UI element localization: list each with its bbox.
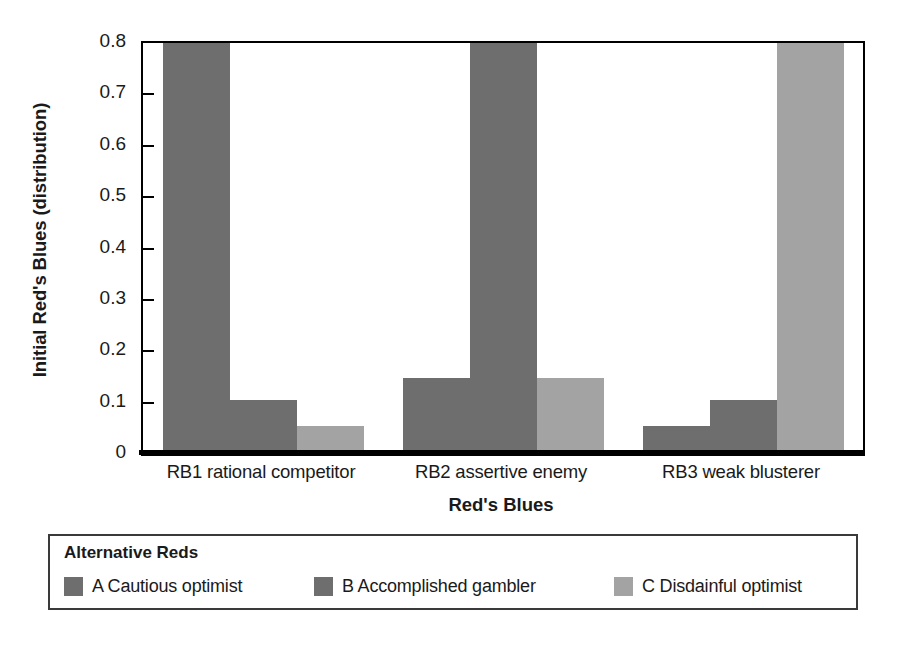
bar-2-a: [403, 378, 470, 454]
y-axis-tick-label: 0.7: [100, 82, 126, 102]
y-axis-tick-mark: [143, 248, 154, 250]
bar-1-a: [163, 43, 230, 454]
plot-frame: [141, 41, 865, 456]
legend-entry: A Cautious optimist: [64, 571, 242, 601]
bar-2-b: [470, 43, 537, 454]
x-axis-category-label: RB1 rational competitor: [141, 459, 381, 485]
y-axis-tick-label: 0.4: [100, 237, 126, 257]
y-axis-tick-mark: [143, 402, 154, 404]
plot-area: [143, 43, 863, 454]
y-axis-tick-mark: [143, 299, 154, 301]
y-axis-tick-mark: [143, 350, 154, 352]
y-axis-tick-label: 0.5: [100, 185, 126, 205]
y-axis-tick-labels: 0.80.70.60.50.40.30.20.10: [60, 31, 134, 462]
x-axis-category-label: RB2 assertive enemy: [381, 459, 621, 485]
legend-entries: A Cautious optimistB Accomplished gamble…: [64, 571, 848, 603]
legend-color-swatch: [314, 577, 333, 596]
y-axis-tick-label: 0.1: [100, 391, 126, 411]
x-axis-category-label: RB3 weak blusterer: [621, 459, 861, 485]
legend-title: Alternative Reds: [64, 543, 198, 563]
legend-entry: B Accomplished gambler: [314, 571, 536, 601]
x-axis-category-labels: RB1 rational competitorRB2 assertive ene…: [141, 459, 861, 487]
y-axis-tick-mark: [143, 145, 154, 147]
legend-entry-label: A Cautious optimist: [92, 576, 242, 597]
bar-3-b: [710, 400, 777, 454]
y-axis-tick-label: 0: [115, 442, 126, 462]
legend-color-swatch: [614, 577, 633, 596]
legend-entry-label: B Accomplished gambler: [342, 576, 536, 597]
bar-chart-figure: Initial Red's Blues (distribution) 0.80.…: [0, 0, 903, 647]
y-axis-tick-label: 0.8: [100, 31, 126, 51]
y-axis-tick-label: 0.2: [100, 339, 126, 359]
legend-entry: C Disdainful optimist: [614, 571, 802, 601]
y-axis-tick-mark: [143, 93, 154, 95]
y-axis-tick-mark: [143, 196, 154, 198]
y-axis-tick-label: 0.3: [100, 288, 126, 308]
x-axis-title: Red's Blues: [141, 492, 861, 518]
y-axis-title: Initial Red's Blues (distribution): [20, 10, 60, 470]
legend-entry-label: C Disdainful optimist: [642, 576, 802, 597]
legend-color-swatch: [64, 577, 83, 596]
bar-2-c: [537, 378, 604, 454]
bar-3-c: [777, 43, 844, 454]
legend: Alternative Reds A Cautious optimistB Ac…: [48, 534, 858, 610]
bar-1-b: [230, 400, 297, 454]
x-axis-baseline: [139, 450, 863, 455]
y-axis-tick-label: 0.6: [100, 134, 126, 154]
